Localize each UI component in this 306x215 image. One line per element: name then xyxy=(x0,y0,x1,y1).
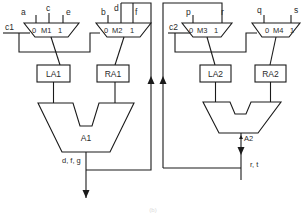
select-label-c2: c2 xyxy=(169,22,178,32)
arrow-up-a2-icon xyxy=(239,135,243,139)
mux-m3-label: M3 xyxy=(197,26,207,35)
input-label-a: a xyxy=(21,7,26,17)
register-ra1-label: RA1 xyxy=(105,69,122,79)
mux-m2-label: M2 xyxy=(112,26,122,35)
left-datapath: a c e c1 0 M1 1 b d f 0 M2 1 LA1 RA1 xyxy=(3,3,155,198)
alu-a1 xyxy=(38,103,134,152)
mux-m1-sel1: 1 xyxy=(58,26,62,35)
mux-m4-sel1: 1 xyxy=(290,26,294,35)
mux-m2-sel1: 1 xyxy=(130,26,134,35)
alu-a2-output-label: r, t xyxy=(250,160,259,169)
mux-m3-sel1: 1 xyxy=(214,26,218,35)
input-label-f: f xyxy=(135,7,138,17)
mux-m3-sel0: 0 xyxy=(189,26,193,35)
input-label-q: q xyxy=(257,5,262,15)
mux-m1-sel0: 0 xyxy=(32,26,36,35)
arrow-down-output-icon xyxy=(83,190,90,198)
input-label-s: s xyxy=(294,5,298,15)
wire-m4-ra2 xyxy=(270,37,276,65)
input-label-c: c xyxy=(46,3,51,13)
mux-m4-sel0: 0 xyxy=(265,26,269,35)
alu-a1-output-label: d, f, g xyxy=(62,156,81,165)
figure-caption: (b) xyxy=(149,207,156,213)
register-ra2-label: RA2 xyxy=(262,69,279,79)
alu-a2-label: A2 xyxy=(244,134,253,143)
alu-a2 xyxy=(203,102,281,133)
mux-m2-sel0: 0 xyxy=(104,26,108,35)
wire-m1-la1 xyxy=(51,37,60,65)
wire-m2-ra1 xyxy=(115,37,124,65)
right-datapath: p r c2 0 M3 1 q s 0 M4 1 LA2 RA2 xyxy=(160,3,301,180)
mux-m4-label: M4 xyxy=(273,26,283,35)
input-label-p: p xyxy=(186,7,191,17)
mux-m1-label: M1 xyxy=(41,26,51,35)
arrow-up-left-icon xyxy=(148,76,155,84)
arrow-up-right-icon xyxy=(160,76,167,84)
select-label-c1: c1 xyxy=(5,22,14,32)
register-la2-label: LA2 xyxy=(208,69,223,79)
input-label-e: e xyxy=(66,7,71,17)
arrow-down-a2-icon xyxy=(238,147,245,155)
input-label-d: d xyxy=(114,3,119,13)
wire-m3-la2 xyxy=(207,37,215,65)
alu-a1-label: A1 xyxy=(81,133,92,143)
input-label-r: r xyxy=(221,7,224,17)
input-label-b: b xyxy=(101,7,106,17)
register-la1-label: LA1 xyxy=(46,69,61,79)
datapath-diagram: a c e c1 0 M1 1 b d f 0 M2 1 LA1 RA1 xyxy=(0,0,306,215)
